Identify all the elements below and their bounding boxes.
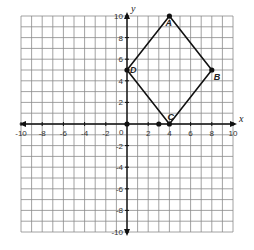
x-tick-label: 6 [188,129,193,138]
x-tick-label: 2 [146,129,151,138]
y-tick-label: -8 [116,206,124,215]
x-tick-label: -8 [39,129,47,138]
vertex-label-a: A [164,18,172,28]
y-tick-label: -10 [111,228,123,237]
vertex-label-c: C [167,112,174,122]
y-tick-label: -6 [116,185,124,194]
vertex-label-b: B [214,72,221,82]
vertex-label-d: D [130,65,137,75]
x-axis-label: x [238,113,244,124]
y-tick-label: 4 [119,77,124,86]
x-tick-label: -4 [81,129,89,138]
y-tick-label: -4 [116,163,124,172]
x-tick-label: -6 [60,129,68,138]
x-axis-arrow-left-icon [19,121,26,127]
y-tick-label: 10 [114,12,123,21]
coordinate-grid: -10-8-6-4-2246810108642-2-4-6-8-10 ABCD … [0,0,254,250]
x-tick-label: 8 [210,129,215,138]
y-axis-label: y [130,3,136,14]
y-tick-label: 2 [119,98,124,107]
vertex-point-d [124,67,129,72]
x-tick-label: -2 [102,129,110,138]
vertex-point-c [167,121,172,126]
x-tick-label: -10 [15,129,27,138]
y-tick-label: 6 [119,55,124,64]
y-tick-label: -2 [116,142,124,151]
x-tick-label: 10 [229,129,238,138]
y-tick-label: 8 [119,34,124,43]
x-tick-label: 4 [167,129,172,138]
origin-label: 0 [119,128,124,137]
point [124,121,129,126]
point [156,121,161,126]
